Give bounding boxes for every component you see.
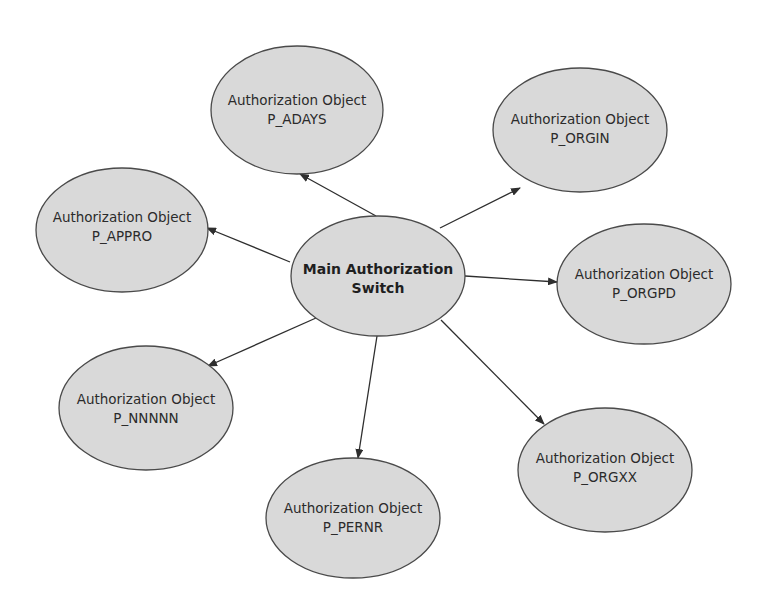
- node-p-nnnnn: Authorization Object P_NNNNN: [59, 346, 233, 470]
- node-label-line2: Switch: [352, 280, 405, 296]
- node-label-line2: P_ADAYS: [267, 111, 326, 127]
- node-label-line1: Authorization Object: [536, 450, 675, 466]
- node-ellipse: [557, 224, 731, 344]
- node-label-line2: P_ORGIN: [550, 130, 609, 146]
- node-p-adays: Authorization Object P_ADAYS: [211, 46, 383, 174]
- node-label-line1: Authorization Object: [511, 111, 650, 127]
- node-label-line1: Authorization Object: [228, 92, 367, 108]
- node-label-line1: Authorization Object: [284, 500, 423, 516]
- edge-to-p-orgxx: [441, 320, 544, 424]
- node-ellipse: [266, 458, 440, 578]
- node-label-line2: P_NNNNN: [113, 410, 178, 426]
- node-label-line2: P_ORGXX: [573, 469, 637, 485]
- edge-to-p-adays: [300, 174, 376, 216]
- node-label-line2: P_APPRO: [92, 228, 152, 244]
- node-p-orgpd: Authorization Object P_ORGPD: [557, 224, 731, 344]
- node-p-appro: Authorization Object P_APPRO: [36, 168, 208, 292]
- edge-to-p-orgpd: [465, 276, 557, 282]
- node-label-line1: Main Authorization: [303, 261, 453, 277]
- node-label-line1: Authorization Object: [53, 209, 192, 225]
- edge-to-p-appro: [207, 228, 290, 262]
- node-label-line2: P_PERNR: [323, 519, 383, 535]
- node-ellipse: [211, 46, 383, 174]
- node-label-line1: Authorization Object: [575, 266, 714, 282]
- node-ellipse: [59, 346, 233, 470]
- node-label-line1: Authorization Object: [77, 391, 216, 407]
- edge-to-p-pernr: [358, 336, 377, 458]
- edge-to-p-nnnnn: [208, 318, 316, 366]
- edge-to-p-orgin: [440, 188, 520, 228]
- authorization-diagram: Main Authorization Switch Authorization …: [0, 0, 767, 598]
- node-p-pernr: Authorization Object P_PERNR: [266, 458, 440, 578]
- node-label-line2: P_ORGPD: [612, 285, 676, 301]
- node-p-orgin: Authorization Object P_ORGIN: [493, 68, 667, 192]
- node-p-orgxx: Authorization Object P_ORGXX: [518, 408, 692, 532]
- node-main-authorization-switch: Main Authorization Switch: [291, 216, 465, 336]
